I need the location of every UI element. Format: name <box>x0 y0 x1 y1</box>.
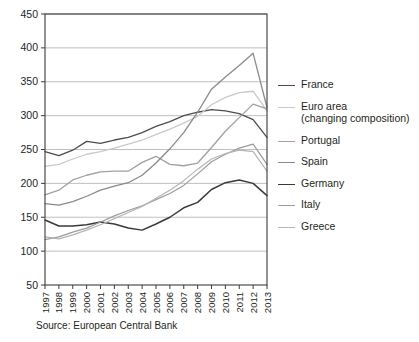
y-axis-tick-labels: 50100150200250300350400450 <box>20 8 38 291</box>
legend-item-label: Italy <box>301 198 320 211</box>
legend-item-label: Greece <box>301 220 335 233</box>
x-axis-tick-label: 2002 <box>109 292 120 313</box>
chart-figure: 50100150200250300350400450 1997199819992… <box>0 0 419 342</box>
legend-item[interactable]: Spain <box>278 155 419 168</box>
legend-swatch-icon <box>278 227 295 228</box>
legend-item-label: Portugal <box>301 134 340 147</box>
y-axis-tick-label: 400 <box>20 41 38 53</box>
y-axis-tick-label: 450 <box>20 8 38 20</box>
x-axis-tick-label: 2013 <box>262 292 273 313</box>
series-line-germany <box>45 180 267 230</box>
x-axis-tick-label: 1998 <box>53 292 64 313</box>
legend-item-label: Germany <box>301 177 344 190</box>
y-axis-tick-label: 100 <box>20 245 38 257</box>
y-axis-tick-label: 300 <box>20 109 38 121</box>
series-line-euro-area <box>45 91 267 166</box>
y-axis-tick-label: 250 <box>20 143 38 155</box>
legend-swatch-icon <box>278 141 295 142</box>
legend-item[interactable]: Portugal <box>278 134 419 147</box>
legend-item-label: France <box>301 78 334 91</box>
x-axis-tick-label: 2001 <box>95 292 106 313</box>
legend-item[interactable]: Italy <box>278 198 419 211</box>
x-axis-tick-label: 2003 <box>123 292 134 313</box>
legend-item-label: Euro area (changing composition) <box>301 100 410 125</box>
legend-swatch-icon <box>278 162 295 163</box>
x-axis-tick-label: 2004 <box>137 292 148 313</box>
x-axis-tick-label: 2007 <box>178 292 189 313</box>
x-axis-tick-label: 2008 <box>192 292 203 313</box>
y-axis-tick-label: 50 <box>26 279 38 291</box>
x-axis-tick-label: 2000 <box>81 292 92 313</box>
x-axis-tick-label: 1999 <box>67 292 78 313</box>
x-axis-tick-label: 2011 <box>234 292 245 312</box>
legend-swatch-icon <box>278 85 295 86</box>
legend-swatch-icon <box>278 205 295 206</box>
y-axis-tick-label: 200 <box>20 177 38 189</box>
legend-item[interactable]: Euro area (changing composition) <box>278 100 419 125</box>
x-axis-tick-label: 2009 <box>206 292 217 313</box>
legend-item[interactable]: Greece <box>278 220 419 233</box>
legend-item[interactable]: Germany <box>278 177 419 190</box>
series-line-spain <box>45 53 267 205</box>
x-axis-ticks <box>45 285 267 289</box>
x-axis-tick-label: 2006 <box>164 292 175 313</box>
legend-item[interactable]: France <box>278 78 419 91</box>
chart-legend: FranceEuro area (changing composition)Po… <box>278 78 419 241</box>
x-axis-tick-label: 2012 <box>248 292 259 313</box>
x-axis-tick-label: 2005 <box>151 292 162 313</box>
y-axis-tick-label: 350 <box>20 75 38 87</box>
source-note: Source: European Central Bank <box>36 320 177 331</box>
x-axis-tick-label: 2010 <box>220 292 231 313</box>
legend-swatch-icon <box>278 184 295 185</box>
data-series-lines <box>45 53 267 239</box>
series-line-france <box>45 110 267 156</box>
x-axis-tick-labels: 1997199819992000200120022003200420052006… <box>40 292 273 313</box>
legend-item-label: Spain <box>301 155 328 168</box>
y-axis-tick-label: 150 <box>20 211 38 223</box>
x-axis-tick-label: 1997 <box>40 292 51 313</box>
legend-swatch-icon <box>278 107 295 108</box>
